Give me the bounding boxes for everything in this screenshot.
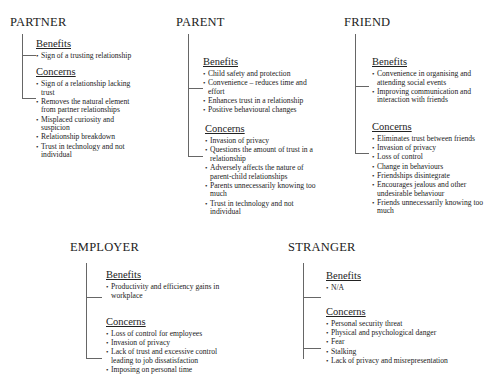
parent-concerns-heading: Concerns [205, 123, 320, 134]
list-item: Friends unnecessarily knowing too much [372, 199, 484, 216]
list-item: Convenience – reduces time and effort [203, 79, 318, 96]
friend-benefits: Benefits Convenience in organising and a… [372, 56, 484, 106]
employer-benefits-list: Productivity and efficiency gains in wor… [106, 283, 226, 300]
list-item: Trust in technology and not individual [205, 200, 320, 217]
list-item: Sign of a trusting relationship [36, 52, 136, 61]
parent-title: PARENT [176, 15, 225, 30]
list-item: Lack of trust and excessive control lead… [106, 348, 226, 365]
list-item: Change in behaviours [372, 163, 484, 172]
stranger-title: STRANGER [288, 240, 356, 255]
list-item: Stalking [326, 348, 476, 357]
friend-title: FRIEND [344, 15, 390, 30]
stranger-concerns-heading: Concerns [326, 306, 476, 317]
partner-branch-benefits [22, 55, 36, 56]
friend-concerns-heading: Concerns [372, 121, 484, 132]
partner-branch-concerns [22, 98, 36, 99]
stranger-concerns: Concerns Personal security threatPhysica… [326, 306, 476, 366]
list-item: Imposing on personal time [106, 366, 226, 375]
partner-benefits-list: Sign of a trusting relationship [36, 52, 136, 61]
partner-benefits: Benefits Sign of a trusting relationship [36, 38, 136, 61]
parent-benefits-heading: Benefits [203, 56, 318, 67]
list-item: Convenience in organising and attending … [372, 70, 484, 87]
parent-branch-benefits [188, 88, 203, 89]
partner-title: PARTNER [10, 15, 66, 30]
list-item: Productivity and efficiency gains in wor… [106, 283, 226, 300]
parent-branch-concerns [188, 156, 203, 157]
friend-benefits-list: Convenience in organising and attending … [372, 70, 484, 105]
stranger-benefits-list: N/A [326, 284, 476, 293]
list-item: Encourages jealous and other undesirable… [372, 181, 484, 198]
stranger-branch-benefits [303, 297, 321, 298]
list-item: Removes the natural element from partner… [36, 98, 136, 115]
friend-concerns-list: Eliminates trust between friendsInvasion… [372, 135, 484, 216]
friend-connector [355, 34, 356, 154]
partner-connector [22, 34, 23, 98]
partner-benefits-heading: Benefits [36, 38, 136, 49]
list-item: N/A [326, 284, 476, 293]
parent-concerns-list: Invasion of privacyQuestions the amount … [205, 137, 320, 217]
stranger-connector [303, 263, 304, 359]
friend-branch-benefits [355, 86, 369, 87]
employer-branch-benefits [86, 297, 102, 298]
parent-benefits: Benefits Child safety and protectionConv… [203, 56, 318, 115]
employer-benefits: Benefits Productivity and efficiency gai… [106, 269, 226, 301]
stranger-branch-concerns [303, 348, 321, 349]
partner-concerns-heading: Concerns [36, 66, 136, 77]
stranger-benefits-heading: Benefits [326, 270, 476, 281]
employer-connector [86, 263, 87, 359]
list-item: Relationship breakdown [36, 133, 136, 142]
list-item: Loss of control [372, 153, 484, 162]
stranger-concerns-list: Personal security threatPhysical and psy… [326, 320, 476, 365]
list-item: Trust in technology and not individual [36, 143, 136, 160]
list-item: Sign of a relationship lacking trust [36, 80, 136, 97]
partner-concerns: Concerns Sign of a relationship lacking … [36, 66, 136, 160]
list-item: Questions the amount of trust in a relat… [205, 146, 320, 163]
parent-concerns: Concerns Invasion of privacyQuestions th… [205, 123, 320, 217]
employer-concerns: Concerns Loss of control for employeesIn… [106, 316, 226, 375]
employer-title: EMPLOYER [70, 240, 139, 255]
parent-benefits-list: Child safety and protectionConvenience –… [203, 70, 318, 115]
list-item: Lack of privacy and misrepresentation [326, 357, 476, 366]
list-item: Misplaced curiosity and suspicion [36, 116, 136, 133]
employer-concerns-heading: Concerns [106, 316, 226, 327]
list-item: Fear [326, 338, 476, 347]
parent-connector [188, 34, 189, 157]
list-item: Physical and psychological danger [326, 329, 476, 338]
friend-concerns: Concerns Eliminates trust between friend… [372, 121, 484, 217]
friend-benefits-heading: Benefits [372, 56, 484, 67]
friend-branch-concerns [355, 153, 369, 154]
employer-branch-concerns [86, 358, 102, 359]
employer-benefits-heading: Benefits [106, 269, 226, 280]
list-item: Improving communication and interaction … [372, 88, 484, 105]
list-item: Positive behavioural changes [203, 106, 318, 115]
stranger-benefits: Benefits N/A [326, 270, 476, 293]
list-item: Adversely affects the nature of parent-c… [205, 164, 320, 181]
partner-concerns-list: Sign of a relationship lacking trustRemo… [36, 80, 136, 160]
list-item: Parents unnecessarily knowing too much [205, 182, 320, 199]
employer-concerns-list: Loss of control for employeesInvasion of… [106, 330, 226, 375]
